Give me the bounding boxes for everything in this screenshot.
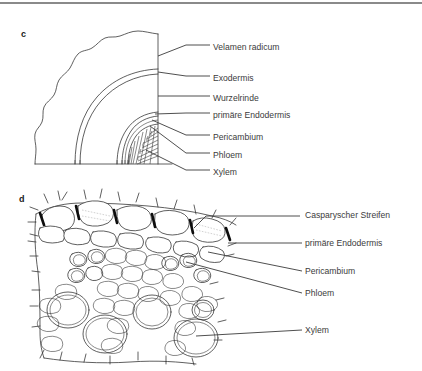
label-phloem-d: Phloem [305, 288, 334, 298]
leader-pericambium-d [208, 252, 302, 271]
panel-letter-d: d [19, 194, 25, 204]
stele-outer-ring [128, 124, 158, 164]
xylem-rays [128, 126, 158, 164]
label-primaere-endodermis-c: primäre Endodermis [213, 110, 290, 120]
leader-xylem-c [146, 150, 210, 170]
xylem-vessel-left [47, 292, 89, 328]
figure-drawing-layer [0, 0, 422, 371]
label-pericambium-d: Pericambium [305, 266, 355, 276]
label-casparyscher-streifen: Casparyscher Streifen [305, 210, 390, 220]
casparyscher-streifen-marks [40, 206, 230, 240]
leader-xylem-d [196, 330, 302, 336]
pericambium-cell-row [30, 226, 236, 263]
leader-primaere-endodermis-c [155, 113, 210, 114]
endodermis-arc-outer [117, 112, 158, 164]
panel-d-drawing [28, 189, 302, 365]
label-velamen-radicum: Velamen radicum [213, 42, 279, 52]
panel-d-left-edge [35, 214, 44, 358]
exodermis-arc-outer [75, 69, 158, 164]
parenchyma-cell-mesh [37, 248, 217, 355]
leader-casparyscher-streifen [194, 216, 300, 228]
endodermis-outer-spurs [28, 189, 236, 225]
top-divider-rule [0, 2, 422, 4]
endodermis-arc-inner [122, 116, 158, 164]
xylem-vessel-small-right [192, 300, 214, 320]
label-primaere-endodermis-d: primäre Endodermis [305, 238, 382, 248]
panel-c-layer-ticks [75, 160, 128, 164]
velamen-outer-boundary [35, 31, 158, 164]
label-phloem-c: Phloem [213, 150, 242, 160]
xylem-vessels [47, 292, 218, 357]
figure-root: c d Velamen radicum Exodermis Wurzelrind… [0, 0, 422, 371]
leader-phloem-c [150, 126, 210, 153]
xylem-vessel-right-upper [133, 295, 171, 329]
pericambium-side-spurs [30, 234, 236, 256]
label-exodermis: Exodermis [213, 73, 254, 83]
phloem-cell-groups [68, 249, 211, 282]
pericambium-arc [125, 120, 158, 164]
label-xylem-c: Xylem [213, 167, 237, 177]
label-wurzelrinde: Wurzelrinde [213, 93, 259, 103]
endodermis-cell-row [28, 189, 236, 242]
leader-pericambium-c [152, 120, 210, 135]
casparian-band-faint-lines [82, 210, 222, 236]
exodermis-arc-inner [80, 74, 158, 164]
leader-exodermis [158, 72, 210, 76]
panel-d-bottom-edge [44, 358, 196, 364]
panel-c-drawing [35, 31, 210, 170]
panel-d-boundary-spurs [28, 241, 226, 365]
panel-letter-c: c [21, 29, 26, 39]
leader-phloem-d [186, 262, 302, 293]
leader-velamen-radicum [158, 45, 210, 56]
xylem-vessel-middle [83, 315, 127, 353]
label-pericambium-c: Pericambium [213, 132, 263, 142]
xylem-vessel-right-lower [174, 319, 218, 357]
label-xylem-d: Xylem [305, 325, 329, 335]
phloem-pockets [138, 131, 152, 160]
